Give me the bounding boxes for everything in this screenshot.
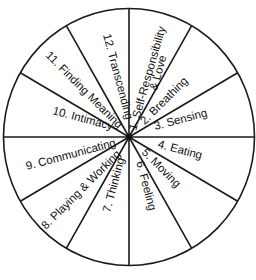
wheel-hub	[126, 134, 132, 140]
wellness-wheel: 1. Self-Responsibility & Love 2. Breathi…	[0, 0, 256, 280]
